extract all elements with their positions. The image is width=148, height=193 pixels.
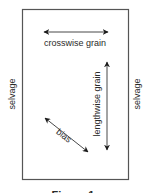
fabric-outline <box>23 10 129 180</box>
figure-caption: Figure 1 <box>52 189 95 193</box>
selvage-left-label: selvage <box>7 78 17 109</box>
fabric-grain-diagram: crosswise grain lengthwise grain bias se… <box>0 0 148 193</box>
bias-label: bias <box>54 127 74 145</box>
selvage-right-label: selvage <box>132 78 142 109</box>
crosswise-grain-label: crosswise grain <box>44 38 106 48</box>
lengthwise-grain-label: lengthwise grain <box>92 71 102 136</box>
